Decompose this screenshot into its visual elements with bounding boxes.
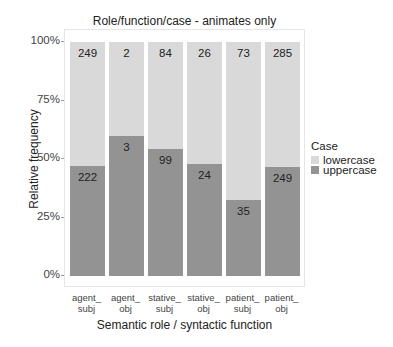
count-label-uppercase: 3 — [109, 141, 144, 153]
plot-panel: 24922223849926247335285249 — [64, 29, 305, 287]
count-label-lowercase: 249 — [70, 47, 105, 59]
count-label-uppercase: 35 — [226, 205, 261, 217]
count-label-uppercase: 24 — [187, 169, 222, 181]
legend-swatch-lowercase — [311, 156, 319, 164]
count-label-uppercase: 249 — [265, 172, 300, 184]
chart-title: Role/function/case - animates only — [64, 14, 305, 28]
bar-agent-subj: 249222 — [70, 42, 105, 276]
y-tick-label: 100% — [31, 34, 60, 46]
legend-label: uppercase — [323, 165, 377, 175]
count-label-lowercase: 26 — [187, 47, 222, 59]
bar-segment-lowercase — [265, 42, 300, 167]
bar-stative-obj: 2624 — [187, 42, 222, 276]
y-tick-label: 0% — [43, 268, 60, 280]
legend-item-uppercase: uppercase — [311, 165, 377, 175]
count-label-lowercase: 73 — [226, 47, 261, 59]
bar-segment-uppercase — [148, 149, 183, 276]
legend-swatch-uppercase — [311, 166, 319, 174]
count-label-uppercase: 222 — [70, 171, 105, 183]
bar-agent-obj: 23 — [109, 42, 144, 276]
count-label-lowercase: 285 — [265, 47, 300, 59]
y-tick-label: 75% — [37, 93, 60, 105]
bar-segment-lowercase — [226, 42, 261, 200]
bar-segment-lowercase — [187, 42, 222, 164]
count-label-uppercase: 99 — [148, 154, 183, 166]
legend-title: Case — [311, 140, 377, 152]
count-label-lowercase: 84 — [148, 47, 183, 59]
y-tick-label: 50% — [37, 151, 60, 163]
x-tick-label: patient_obj — [257, 292, 307, 314]
bar-segment-lowercase — [70, 42, 105, 166]
x-axis-label: Semantic role / syntactic function — [64, 318, 305, 332]
legend: Case lowercase uppercase — [311, 140, 377, 175]
count-label-lowercase: 2 — [109, 47, 144, 59]
bar-segment-uppercase — [109, 136, 144, 276]
y-tick-label: 25% — [37, 210, 60, 222]
bar-patient-subj: 7335 — [226, 42, 261, 276]
bar-patient-obj: 285249 — [265, 42, 300, 276]
bar-stative-subj: 8499 — [148, 42, 183, 276]
